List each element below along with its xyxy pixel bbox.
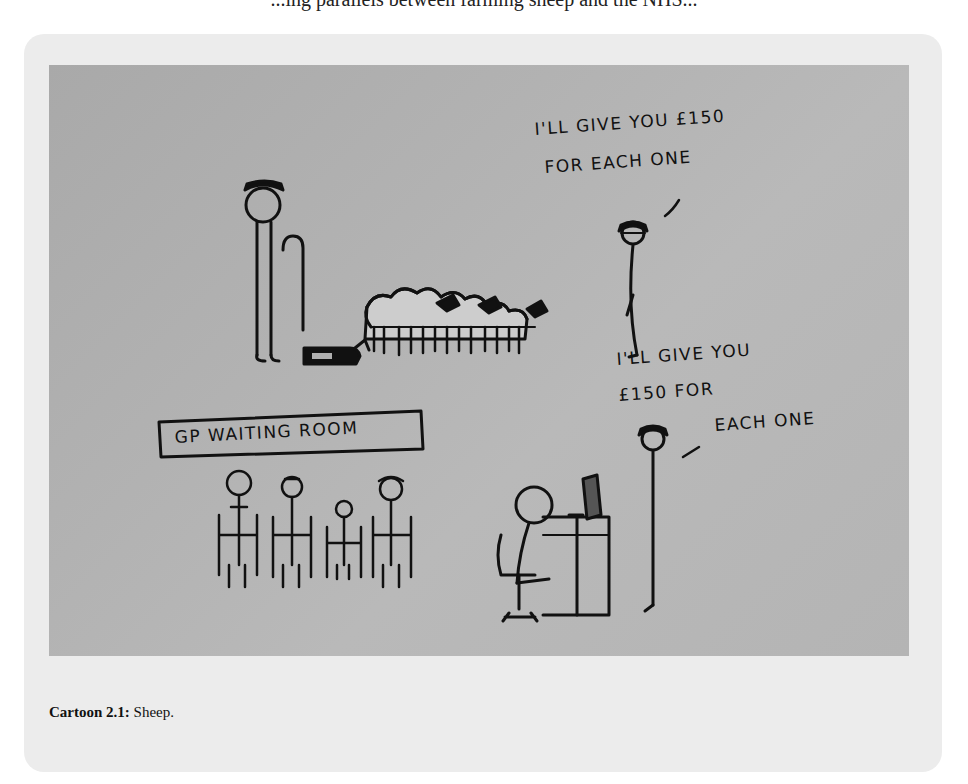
buyer-figure-bottom [639, 426, 667, 611]
speech-bottom-line3: EACH ONE [714, 408, 816, 435]
sign-text: GP WAITING ROOM [174, 417, 359, 447]
receptionist-at-desk [498, 475, 609, 621]
sheepdog [304, 340, 369, 364]
flock-of-sheep [365, 289, 547, 355]
caption-text: Sheep. [130, 704, 174, 720]
shepherd-figure [245, 181, 303, 361]
buyer-figure-top [619, 222, 647, 357]
cartoon-photo: I'LL GIVE YOU £150 FOR EACH ONE GP WAITI… [49, 65, 909, 656]
caption-label: Cartoon 2.1: [49, 704, 130, 720]
speech-bottom-line2: £150 FOR [618, 378, 715, 405]
seated-patients [219, 471, 411, 587]
speech-pointer-top [665, 200, 679, 216]
speech-top-line1: I'LL GIVE YOU £150 [534, 106, 726, 139]
page-top-text-fragment: ...ing parallels between farming sheep a… [0, 0, 968, 22]
speech-top-line2: FOR EACH ONE [544, 147, 692, 177]
top-text: ...ing parallels between farming sheep a… [0, 0, 968, 11]
figure-caption: Cartoon 2.1: Sheep. [49, 704, 174, 721]
speech-pointer-bottom [683, 447, 699, 457]
